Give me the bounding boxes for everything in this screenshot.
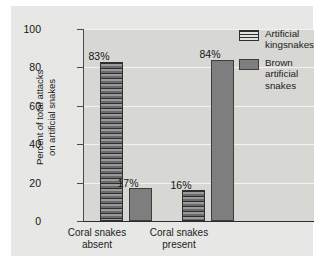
bar-absent-brown: [129, 188, 152, 221]
bar-label-present-kingsnakes: 16%: [158, 179, 204, 191]
bar-present-brown: [211, 60, 234, 221]
legend-item-artificial-kingsnakes: Artificial kingsnakes: [239, 28, 325, 51]
x-category-absent-line1: Coral snakes: [68, 227, 126, 238]
legend: Artificial kingsnakes Brown artificial s…: [239, 28, 325, 97]
legend-swatch-striped-icon: [239, 30, 259, 41]
x-category-absent-line2: absent: [82, 239, 112, 250]
bar-label-present-brown: 84%: [187, 48, 233, 60]
legend-label-kingsnakes: Artificial kingsnakes: [265, 28, 325, 51]
y-tick-label-60: 60: [1, 100, 41, 112]
y-tick-label-20: 20: [1, 177, 41, 189]
legend-label-kingsnakes-line1: Artificial: [265, 28, 299, 39]
legend-label-brown: Brown artificial snakes: [265, 57, 325, 91]
y-tick-label-0: 0: [1, 215, 41, 227]
legend-item-brown-artificial-snakes: Brown artificial snakes: [239, 57, 325, 91]
x-category-label-present: Coral snakes present: [124, 227, 234, 251]
bar-label-absent-brown: 17%: [105, 177, 151, 189]
legend-label-brown-line1: Brown: [265, 57, 293, 68]
bar-label-absent-kingsnakes: 83%: [76, 50, 122, 62]
x-category-present-line1: Coral snakes: [150, 227, 208, 238]
bar-absent-kingsnakes: [100, 62, 123, 221]
y-tick-label-40: 40: [1, 138, 41, 150]
chart-panel: Percent of total attacks on artificial s…: [11, 6, 313, 256]
y-axis-title-line1: Percent of total attacks: [34, 70, 45, 165]
chart-figure: Percent of total attacks on artificial s…: [0, 0, 335, 269]
legend-label-brown-line3: snakes: [265, 80, 296, 91]
y-tick-label-80: 80: [1, 61, 41, 73]
legend-swatch-solid-icon: [239, 59, 259, 70]
legend-label-brown-line2: artificial: [265, 68, 298, 79]
legend-label-kingsnakes-line2: kingsnakes: [265, 39, 314, 50]
y-tick-label-100: 100: [1, 23, 41, 35]
y-axis-title-line2: on artificial snakes: [45, 79, 56, 156]
bar-present-kingsnakes: [182, 190, 205, 221]
x-category-present-line2: present: [162, 239, 195, 250]
